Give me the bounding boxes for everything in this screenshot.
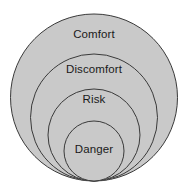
nested-circles-diagram: ComfortDiscomfortRiskDanger — [0, 0, 187, 194]
diagram-canvas: ComfortDiscomfortRiskDanger — [0, 0, 187, 194]
zone-label-discomfort: Discomfort — [66, 63, 123, 75]
zone-label-risk: Risk — [83, 93, 106, 105]
zone-label-comfort: Comfort — [73, 28, 115, 40]
zone-label-danger: Danger — [75, 143, 113, 155]
